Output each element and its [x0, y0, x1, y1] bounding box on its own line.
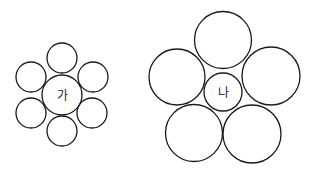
outer-circle-upper-left [16, 62, 46, 92]
outer-circle-top [195, 12, 252, 69]
outer-circle-lower-right [77, 98, 107, 128]
outer-circle-bottom [47, 116, 77, 146]
outer-circle-left [149, 49, 205, 105]
outer-circle-lower-left [16, 98, 46, 128]
outer-circle-lower-right [223, 105, 281, 163]
figure-label: 나 [218, 86, 229, 100]
outer-circle-lower-left [166, 105, 223, 162]
outer-circle-right [242, 47, 300, 105]
outer-circle-top [47, 43, 77, 73]
figure-ga: 가 [16, 43, 108, 146]
figure-na: 나 [149, 12, 300, 164]
outer-circle-upper-right [78, 62, 108, 92]
figure-label: 가 [57, 89, 68, 103]
diagram-canvas: 가 나 [0, 0, 316, 178]
